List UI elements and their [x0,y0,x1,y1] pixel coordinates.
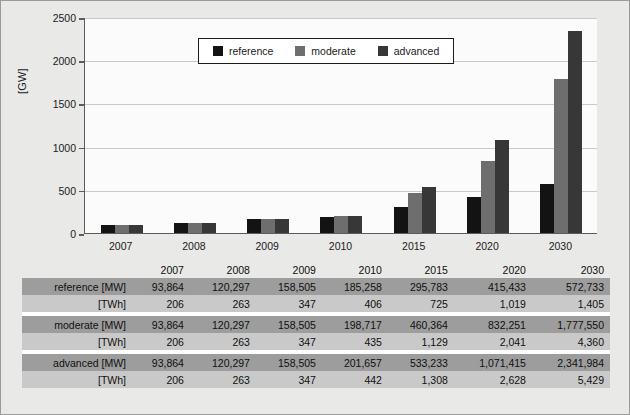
legend-label: moderate [311,45,355,57]
table-cell-2010: 406 [322,295,388,312]
table-body: reference [MW]93,864120,297158,505185,25… [22,278,610,388]
bar-advanced-2010 [348,216,362,233]
legend-label: advanced [394,45,440,57]
legend-label: reference [229,45,273,57]
x-tick-label: 2015 [402,240,425,252]
legend-swatch-icon [295,46,305,56]
table-cell-2009: 158,505 [256,316,322,333]
table-cell-2030: 2,341,984 [532,354,610,371]
x-tick-label: 2008 [182,240,205,252]
bar-reference-2010 [320,217,334,233]
y-axis-title: [GW] [16,68,28,94]
table-cell-2010: 435 [322,333,388,350]
table-cell-2030: 572,733 [532,278,610,295]
table-cell-2007: 93,864 [132,316,190,333]
y-tick-label: 1000 [16,142,76,154]
table-column-header-2010: 2010 [322,261,388,278]
y-tick-mark [79,234,84,236]
table-row: [TWh]2062633474421,3082,6285,429 [22,371,610,388]
table-cell-2008: 263 [190,333,256,350]
y-tick-label: 500 [16,185,76,197]
bar-advanced-2009 [275,219,289,233]
bar-reference-2015 [394,207,408,233]
x-tick-label: 2007 [109,240,132,252]
table-cell-2030: 4,360 [532,333,610,350]
data-table: 2007200820092010201520202030 reference [… [22,261,610,388]
legend-entry-reference[interactable]: reference [213,45,273,57]
table-cell-2007: 93,864 [132,354,190,371]
table-row: [TWh]2062633474067251,0191,405 [22,295,610,312]
table-cell-2020: 2,041 [454,333,532,350]
table-cell-2020: 2,628 [454,371,532,388]
table-cell-2030: 1,405 [532,295,610,312]
bar-advanced-2007 [129,225,143,233]
bar-group [451,18,524,233]
bar-moderate-2010 [334,216,348,233]
table-cell-2007: 93,864 [132,278,190,295]
figure-container: [GW] 05001000150020002500 20072008200920… [0,0,630,415]
table-corner-cell [22,261,132,278]
table-row-label: [TWh] [22,333,132,350]
table-row: [TWh]2062633474351,1292,0414,360 [22,333,610,350]
table-row-label: [TWh] [22,371,132,388]
table-cell-2008: 120,297 [190,316,256,333]
chart-panel: [GW] 05001000150020002500 20072008200920… [2,2,630,256]
table-row-label: [TWh] [22,295,132,312]
legend-entry-advanced[interactable]: advanced [378,45,440,57]
data-table-panel: 2007200820092010201520202030 reference [… [2,257,630,414]
bar-moderate-2020 [481,161,495,233]
table-cell-2009: 158,505 [256,278,322,295]
table-cell-2008: 120,297 [190,354,256,371]
table-cell-2010: 185,258 [322,278,388,295]
bar-moderate-2009 [261,219,275,233]
y-tick-label: 2500 [16,12,76,24]
table-cell-2020: 415,433 [454,278,532,295]
bar-moderate-2008 [188,223,202,233]
table-cell-2009: 158,505 [256,354,322,371]
table-cell-2020: 1,071,415 [454,354,532,371]
bar-reference-2007 [101,225,115,233]
legend-swatch-icon [378,46,388,56]
table-cell-2015: 1,129 [388,333,454,350]
bar-group [85,18,158,233]
table-cell-2009: 347 [256,371,322,388]
table-cell-2008: 263 [190,295,256,312]
bar-moderate-2030 [554,79,568,233]
table-cell-2008: 120,297 [190,278,256,295]
table-row-label: reference [MW] [22,278,132,295]
x-tick-label: 2010 [329,240,352,252]
table-cell-2010: 201,657 [322,354,388,371]
bar-advanced-2020 [495,140,509,233]
bar-advanced-2030 [568,31,582,233]
table-row-label: advanced [MW] [22,354,132,371]
table-cell-2020: 832,251 [454,316,532,333]
y-tick-label: 0 [16,228,76,240]
table-header-row: 2007200820092010201520202030 [22,261,610,278]
table-row: moderate [MW]93,864120,297158,505198,717… [22,316,610,333]
table-cell-2009: 347 [256,295,322,312]
table-cell-2015: 1,308 [388,371,454,388]
bar-group [525,18,598,233]
table-column-header-2030: 2030 [532,261,610,278]
table-cell-2010: 442 [322,371,388,388]
table-cell-2008: 263 [190,371,256,388]
table-column-header-2015: 2015 [388,261,454,278]
legend-entry-moderate[interactable]: moderate [295,45,355,57]
bar-moderate-2015 [408,193,422,233]
table-cell-2015: 460,364 [388,316,454,333]
table-column-header-2008: 2008 [190,261,256,278]
table-row-label: moderate [MW] [22,316,132,333]
table-cell-2030: 5,429 [532,371,610,388]
y-tick-label: 1500 [16,98,76,110]
table-cell-2007: 206 [132,371,190,388]
chart-legend: referencemoderateadvanced [198,38,454,64]
table-cell-2030: 1,777,550 [532,316,610,333]
table-cell-2015: 725 [388,295,454,312]
x-tick-label: 2030 [549,240,572,252]
bar-reference-2030 [540,184,554,233]
table-column-header-2020: 2020 [454,261,532,278]
table-cell-2010: 198,717 [322,316,388,333]
table-row: advanced [MW]93,864120,297158,505201,657… [22,354,610,371]
table-cell-2015: 295,783 [388,278,454,295]
table-head: 2007200820092010201520202030 [22,261,610,278]
